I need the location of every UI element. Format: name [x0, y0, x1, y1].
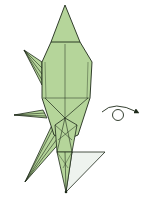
origami-diagram	[0, 0, 145, 200]
left-horizontal-flap	[14, 110, 47, 118]
turn-over-icon	[102, 106, 137, 121]
white-flap	[66, 152, 105, 192]
upper-left-fin	[24, 50, 42, 85]
